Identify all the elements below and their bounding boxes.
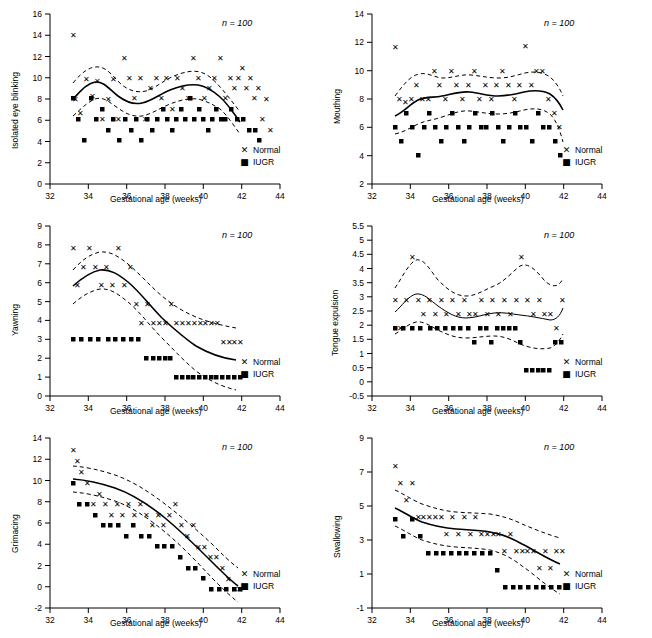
svg-text:✕: ✕ — [213, 553, 220, 562]
svg-text:42: 42 — [559, 615, 569, 625]
svg-text:✕: ✕ — [239, 64, 246, 73]
svg-text:12: 12 — [355, 37, 365, 47]
legend-label-normal: Normal — [253, 568, 280, 580]
svg-text:✕: ✕ — [403, 496, 410, 505]
svg-text:✕: ✕ — [70, 244, 77, 253]
svg-text:32: 32 — [367, 191, 377, 201]
svg-text:✕: ✕ — [501, 296, 508, 305]
svg-text:2: 2 — [37, 158, 42, 168]
svg-text:4: 4 — [359, 264, 364, 274]
svg-text:✕: ✕ — [219, 564, 226, 573]
svg-text:-2: -2 — [34, 603, 42, 613]
cross-icon: ✕ — [240, 356, 249, 368]
svg-text:✕: ✕ — [231, 84, 238, 93]
svg-text:✕: ✕ — [263, 95, 270, 104]
svg-text:✕: ✕ — [119, 511, 126, 520]
n-label-isolated-eye-blinking: n = 100 — [222, 18, 252, 28]
svg-text:44: 44 — [275, 191, 285, 201]
svg-text:0: 0 — [37, 582, 42, 592]
legend-mouthing: ✕ Normal ■ IUGR — [562, 144, 602, 168]
svg-text:✕: ✕ — [115, 244, 122, 253]
svg-text:✕: ✕ — [227, 74, 234, 83]
svg-text:✕: ✕ — [511, 95, 518, 104]
ylabel-swallowing: Swallowing — [332, 515, 342, 558]
svg-text:42: 42 — [559, 403, 569, 413]
svg-text:34: 34 — [84, 191, 94, 201]
svg-text:1: 1 — [37, 372, 42, 382]
panel-tongue-expulsion: -0.500.5 11.52 2.533.5 44.55 5.5 323436 … — [322, 216, 652, 421]
svg-text:✕: ✕ — [86, 244, 93, 253]
xlabel-swallowing: Gestational age (weeks) — [432, 618, 524, 628]
svg-text:✕: ✕ — [83, 75, 90, 84]
legend-item-normal: ✕ Normal — [562, 144, 602, 156]
legend-isolated-eye-blinking: ✕ Normal ■ IUGR — [240, 144, 280, 168]
svg-text:✕: ✕ — [488, 95, 495, 104]
svg-text:44: 44 — [275, 403, 285, 413]
ylabel-isolated-eye-blinking: Isolated eye blinking — [10, 72, 20, 149]
svg-text:✕: ✕ — [163, 74, 170, 83]
svg-text:✕: ✕ — [431, 67, 438, 76]
svg-text:✕: ✕ — [507, 310, 514, 319]
svg-text:✕: ✕ — [217, 54, 224, 63]
svg-text:✕: ✕ — [453, 81, 460, 90]
svg-text:✕: ✕ — [168, 300, 175, 309]
n-label-swallowing: n = 100 — [544, 442, 574, 452]
svg-text:✕: ✕ — [74, 457, 81, 466]
panel-swallowing: -113 579 323436 384042 44 ✕✕✕ ✕✕✕ ✕✕✕ ✕✕… — [322, 428, 652, 633]
svg-text:✕: ✕ — [465, 81, 472, 90]
plot-grimacing: -202 468 101214 323436 384042 44 ✕✕✕ ✕✕✕… — [0, 428, 330, 633]
svg-text:✕: ✕ — [528, 81, 535, 90]
svg-text:✕: ✕ — [442, 95, 449, 104]
svg-text:12: 12 — [33, 454, 43, 464]
svg-text:✕: ✕ — [449, 513, 456, 522]
panel-yawning: 012 345 678 9 323436 384042 44 ✕✕✕ ✕✕✕ ✕… — [0, 216, 330, 421]
svg-text:32: 32 — [45, 191, 55, 201]
svg-text:✕: ✕ — [259, 115, 266, 124]
svg-text:✕: ✕ — [476, 95, 483, 104]
svg-text:44: 44 — [597, 615, 607, 625]
svg-text:✕: ✕ — [78, 468, 85, 477]
svg-text:✕: ✕ — [160, 521, 167, 530]
svg-text:44: 44 — [597, 403, 607, 413]
svg-text:✕: ✕ — [137, 74, 144, 83]
svg-text:✕: ✕ — [77, 109, 84, 118]
svg-text:32: 32 — [367, 615, 377, 625]
svg-text:✕: ✕ — [179, 84, 186, 93]
svg-text:✕: ✕ — [545, 95, 552, 104]
n-label-mouthing: n = 100 — [544, 18, 574, 28]
svg-text:✕: ✕ — [530, 310, 537, 319]
svg-text:✕: ✕ — [455, 530, 462, 539]
legend-item-iugr: ■ IUGR — [240, 156, 280, 168]
panel-mouthing: 246 81012 14 323436 384042 44 ✕✕✕ ✕✕✕ ✕✕… — [322, 4, 652, 209]
svg-text:✕: ✕ — [547, 310, 554, 319]
svg-text:✕: ✕ — [443, 530, 450, 539]
xlabel-tongue-expulsion: Gestational age (weeks) — [432, 406, 524, 416]
svg-text:✕: ✕ — [153, 74, 160, 83]
svg-text:34: 34 — [406, 191, 416, 201]
svg-text:✕: ✕ — [472, 310, 479, 319]
svg-text:✕: ✕ — [195, 74, 202, 83]
svg-text:✕: ✕ — [190, 54, 197, 63]
svg-text:7: 7 — [37, 259, 42, 269]
svg-text:✕: ✕ — [524, 296, 531, 305]
svg-text:✕: ✕ — [201, 94, 208, 103]
legend-label-normal: Normal — [575, 568, 602, 580]
svg-text:✕: ✕ — [551, 109, 558, 118]
svg-text:6: 6 — [359, 122, 364, 132]
svg-text:✕: ✕ — [513, 296, 520, 305]
svg-text:✕: ✕ — [90, 500, 97, 509]
svg-text:✕: ✕ — [493, 81, 500, 90]
square-icon: ■ — [240, 580, 249, 592]
svg-text:✕: ✕ — [99, 115, 106, 124]
svg-text:0: 0 — [37, 179, 42, 189]
svg-text:3: 3 — [37, 334, 42, 344]
n-label-yawning: n = 100 — [222, 230, 252, 240]
svg-text:1.5: 1.5 — [352, 334, 364, 344]
svg-text:✕: ✕ — [530, 547, 537, 556]
legend-label-iugr: IUGR — [253, 580, 274, 592]
svg-text:✕: ✕ — [467, 530, 474, 539]
svg-text:10: 10 — [355, 66, 365, 76]
svg-text:✕: ✕ — [222, 94, 229, 103]
svg-text:✕: ✕ — [126, 74, 133, 83]
svg-text:✕: ✕ — [143, 511, 150, 520]
